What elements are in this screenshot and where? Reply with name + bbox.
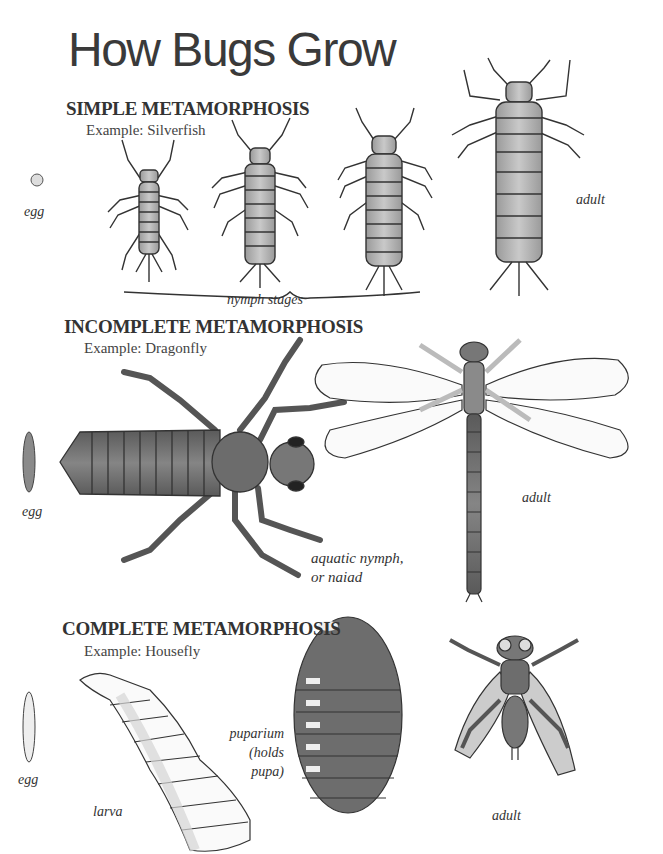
label-adult-incomplete: adult [522, 490, 551, 506]
section-example-simple: Example: Silverfish [86, 122, 206, 139]
section-example-complete: Example: Housefly [84, 643, 200, 660]
silverfish-egg-icon [31, 174, 43, 186]
housefly-egg-icon [23, 692, 35, 762]
puparium-icon [294, 617, 402, 813]
label-pupa: pupa) [226, 764, 284, 780]
label-holds: (holds [226, 745, 284, 761]
label-naiad: or naiad [311, 569, 362, 586]
section-heading-incomplete: INCOMPLETE METAMORPHOSIS [64, 316, 363, 338]
label-nymph-stages: nymph stages [227, 292, 303, 308]
label-larva: larva [93, 804, 123, 820]
silverfish-nymph-1-icon [108, 140, 188, 282]
label-aquatic-nymph: aquatic nymph, [311, 550, 403, 567]
section-example-incomplete: Example: Dragonfly [84, 340, 207, 357]
page-title: How Bugs Grow [68, 22, 395, 77]
label-egg-simple: egg [24, 204, 44, 220]
dragonfly-naiad-icon [60, 340, 344, 575]
housefly-adult-icon [450, 636, 578, 775]
label-adult-complete: adult [492, 808, 521, 824]
silverfish-nymph-2-icon [212, 118, 308, 288]
dragonfly-egg-icon [23, 432, 35, 492]
housefly-larva-icon [80, 673, 250, 851]
label-egg-incomplete: egg [22, 504, 42, 520]
silverfish-nymph-3-icon [338, 108, 432, 296]
section-heading-complete: COMPLETE METAMORPHOSIS [62, 618, 341, 640]
label-egg-complete: egg [18, 772, 38, 788]
section-heading-simple: SIMPLE METAMORPHOSIS [66, 98, 309, 120]
label-puparium: puparium [226, 726, 284, 742]
silverfish-adult-icon [452, 58, 584, 296]
label-adult-simple: adult [576, 192, 605, 208]
